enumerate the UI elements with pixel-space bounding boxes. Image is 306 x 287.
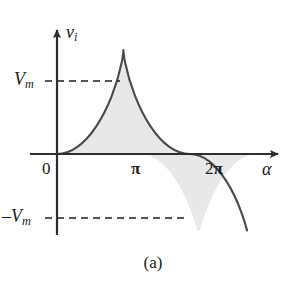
figure-caption: (a) [0, 253, 306, 273]
negative-half-cycle-fill [140, 154, 257, 230]
sine-waveform-figure: vi Vm –Vm 0 π 2π α (a) [0, 0, 306, 287]
y-axis-label: vi [66, 23, 77, 44]
waveform-plot [0, 0, 306, 287]
peak-value-label: Vm [14, 70, 34, 91]
two-pi-tick-label: 2π [205, 160, 223, 177]
trough-value-label: –Vm [2, 207, 31, 228]
x-axis-label: α [262, 160, 271, 178]
pi-tick-label: π [131, 160, 140, 177]
origin-tick-label: 0 [42, 160, 51, 177]
positive-half-cycle-fill [57, 62, 190, 154]
